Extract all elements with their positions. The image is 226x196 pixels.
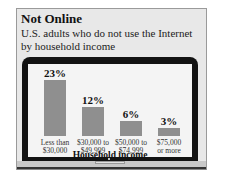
laptop-base-edge — [17, 169, 206, 170]
bar-50000-to-74999 — [120, 121, 142, 136]
value-label-6: 6% — [116, 108, 146, 120]
bar-30000-to-49999 — [82, 107, 104, 136]
value-label-23: 23% — [40, 67, 70, 79]
laptop-camera-dot — [108, 158, 110, 160]
x-axis-label: Household income — [28, 150, 192, 160]
laptop-notch — [95, 161, 125, 164]
bar-less-than-30000 — [44, 80, 66, 136]
value-label-12: 12% — [78, 94, 108, 106]
bar-75000-or-more — [158, 128, 180, 136]
chart-subtitle: U.S. adults who do not use the Internet … — [21, 27, 206, 53]
value-label-3: 3% — [154, 115, 184, 127]
chart-title: Not Online — [21, 11, 82, 27]
